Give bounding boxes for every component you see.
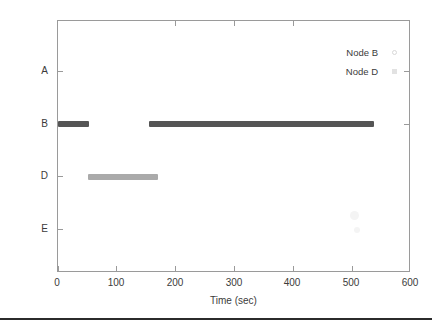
x-tick-600 <box>409 266 410 271</box>
scan-artifact <box>354 227 360 233</box>
x-tick-top-200 <box>175 21 176 26</box>
y-tick-d <box>58 176 63 177</box>
x-tick-top-400 <box>293 21 294 26</box>
x-tick-top-300 <box>234 21 235 26</box>
x-tick-400 <box>293 266 294 271</box>
y-tick-label-d: D <box>34 170 48 181</box>
x-tick-label-500: 500 <box>331 277 371 288</box>
x-tick-500 <box>352 266 353 271</box>
legend: Node B Node D <box>346 43 397 81</box>
x-tick-label-400: 400 <box>272 277 312 288</box>
legend-label-node-b: Node B <box>346 47 378 58</box>
y-tick-right-b <box>404 124 409 125</box>
series-node-b-segment-2 <box>149 121 374 127</box>
scan-artifact <box>350 211 359 220</box>
y-tick-label-b: B <box>34 118 48 129</box>
page-rule <box>0 318 432 320</box>
y-tick-e <box>58 229 63 230</box>
x-tick-label-600: 600 <box>390 277 430 288</box>
legend-marker-plus-icon <box>392 69 397 74</box>
legend-item-node-b: Node B <box>346 43 397 62</box>
x-tick-label-200: 200 <box>155 277 195 288</box>
series-node-d-segment-1 <box>88 174 158 180</box>
chart-figure: Nodes A B D E 0 100 200 300 400 500 600 … <box>0 0 432 333</box>
plot-area: Node B Node D <box>57 20 410 272</box>
y-tick-right-a <box>404 71 409 72</box>
series-node-b-segment-1 <box>58 121 89 127</box>
x-tick-label-100: 100 <box>96 277 136 288</box>
x-tick-0 <box>58 266 59 271</box>
x-axis-title: Time (sec) <box>57 295 410 306</box>
legend-label-node-d: Node D <box>346 66 378 77</box>
legend-marker-circle-icon <box>392 50 397 55</box>
legend-item-node-d: Node D <box>346 62 397 81</box>
x-tick-label-300: 300 <box>214 277 254 288</box>
y-tick-label-e: E <box>34 223 48 234</box>
x-tick-200 <box>175 266 176 271</box>
x-tick-300 <box>234 266 235 271</box>
y-tick-a <box>58 71 63 72</box>
y-tick-label-a: A <box>34 65 48 76</box>
x-tick-label-0: 0 <box>37 277 77 288</box>
x-tick-100 <box>116 266 117 271</box>
